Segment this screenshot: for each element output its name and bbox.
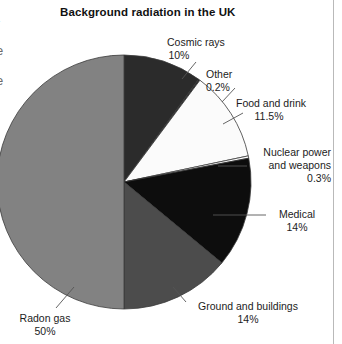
pie-label-ground-and-buildings: Ground and buildings 14%	[188, 300, 308, 326]
pie-label-medical-value: 14%	[271, 221, 323, 234]
pie-label-food-and-drink-value: 11.5%	[236, 110, 306, 123]
pie-label-radon-gas-value: 50%	[12, 325, 78, 338]
pie-label-nuclear-power: Nuclear power and weapons 0.3%	[243, 146, 331, 185]
pie-label-nuclear-power-text-line-1: Nuclear power	[263, 146, 331, 158]
pie-label-cosmic-rays: Cosmic rays 10%	[167, 36, 225, 62]
pie-label-cosmic-rays-value: 10%	[167, 49, 225, 62]
pie-label-medical: Medical 14%	[271, 208, 323, 234]
pie-label-radon-gas: Radon gas 50%	[12, 312, 78, 338]
pie-label-other: Other 0.2%	[206, 68, 248, 94]
pie-label-nuclear-power-text-line-2: and weapons	[243, 159, 331, 172]
pie-label-ground-and-buildings-text: Ground and buildings	[198, 300, 298, 312]
pie-label-medical-text: Medical	[279, 208, 315, 220]
pie-label-food-and-drink-text: Food and drink	[236, 97, 306, 109]
pie-label-radon-gas-text: Radon gas	[20, 312, 71, 324]
pie-label-cosmic-rays-text: Cosmic rays	[167, 36, 225, 48]
pie-label-food-and-drink: Food and drink 11.5%	[236, 97, 306, 123]
pie-label-ground-and-buildings-value: 14%	[188, 313, 308, 326]
pie-label-nuclear-power-value: 0.3%	[243, 172, 331, 185]
pie-label-other-text: Other	[206, 68, 232, 80]
pie-slice-radon-gas	[0, 55, 124, 309]
chart-page: - e e Background radiation in the UK Cos…	[0, 0, 342, 344]
pie-label-other-value: 0.2%	[206, 81, 248, 94]
